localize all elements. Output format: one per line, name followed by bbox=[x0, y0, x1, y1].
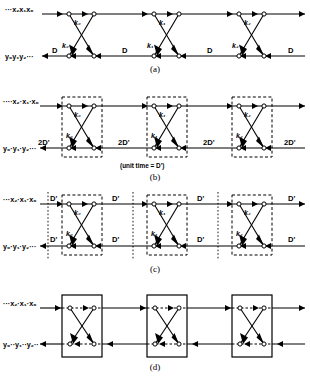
delay-label-3: 2D' bbox=[284, 138, 296, 147]
panel-c-caption: (c) bbox=[0, 264, 310, 274]
output-stream-label: y₀·y₁·y₂··· bbox=[3, 144, 36, 153]
time-dividers bbox=[48, 192, 218, 260]
input-stream-label: ···x₂·x₁·x₀ bbox=[3, 299, 36, 308]
delay-label-1: 2D' bbox=[118, 138, 130, 147]
delay-label-2: 2D' bbox=[203, 138, 215, 147]
butterfly-stage-1 bbox=[153, 305, 181, 347]
output-stream-label: y₀·y₁·y₂··· bbox=[3, 242, 36, 251]
delay-label-1: D bbox=[122, 46, 128, 55]
delay-label-bottom-1: D' bbox=[112, 235, 119, 244]
delay-label-bottom-3: D' bbox=[288, 235, 295, 244]
stage-label-k2-top: k₂ bbox=[244, 111, 251, 118]
delay-label-0: D bbox=[52, 46, 58, 55]
stage-label-k1-bottom: k₁ bbox=[147, 42, 154, 49]
butterfly-stage-0 bbox=[67, 202, 96, 248]
input-stream-label: ····x₂·x₁·x₀ bbox=[3, 97, 39, 106]
stage-label-k2-bottom: k₂ bbox=[236, 132, 243, 139]
butterfly-stage-1 bbox=[152, 12, 181, 58]
butterfly-stage-1 bbox=[152, 202, 181, 248]
panel-d-caption: (d) bbox=[0, 362, 310, 372]
stage-label-k1-top: k₁ bbox=[159, 19, 166, 26]
stage-label-k0-top: k₀ bbox=[74, 209, 81, 216]
delay-label-2: D bbox=[207, 46, 213, 55]
panel-c: k₀ k₀ k₁ k₁ k₂ k₂ D' D' D' D' D' D' D' D… bbox=[0, 190, 310, 272]
butterfly-stage-0 bbox=[67, 12, 96, 58]
butterfly-stage-1 bbox=[152, 104, 181, 150]
panel-a: k₀ k₀ k₁ k₁ k₂ k₂ D D D D ···x₂x₁x₀ y₀y₁… bbox=[0, 0, 310, 80]
panel-b: k₀ k₀ k₁ k₁ k₂ k₂ 2D' 2D' 2D' 2D' ····x₂… bbox=[0, 92, 310, 187]
stage-label-k1-bottom: k₁ bbox=[151, 132, 158, 139]
stage-label-k0-top: k₀ bbox=[74, 19, 81, 26]
unit-time-note: (unit time = D') bbox=[120, 162, 164, 170]
stage-label-k2-bottom: k₂ bbox=[232, 42, 239, 49]
panel-c-diagram: k₀ k₀ k₁ k₁ k₂ k₂ D' D' D' D' D' D' D' D… bbox=[0, 190, 310, 272]
panel-a-caption: (a) bbox=[0, 64, 310, 74]
butterfly-stage-0 bbox=[68, 305, 96, 347]
stage-label-k0-bottom: k₀ bbox=[62, 42, 69, 49]
butterfly-stage-0 bbox=[67, 104, 96, 150]
input-stream-label: ···x₂·x₁·x₀ bbox=[3, 195, 36, 204]
input-stream-label: ···x₂x₁x₀ bbox=[5, 5, 34, 14]
delay-label-top-2: D' bbox=[197, 194, 204, 203]
delay-label-bottom-0: D' bbox=[50, 235, 57, 244]
panel-d: ···x₂·x₁·x₀ y₀··y₁··y₂·· (d) bbox=[0, 288, 310, 379]
butterfly-stage-2 bbox=[237, 202, 266, 248]
stage-label-k1-top: k₁ bbox=[159, 209, 166, 216]
delay-label-top-1: D' bbox=[112, 194, 119, 203]
delay-label-0: 2D' bbox=[38, 138, 50, 147]
stage-label-k0-bottom: k₀ bbox=[66, 230, 73, 237]
stage-label-k0-top: k₀ bbox=[74, 111, 81, 118]
delay-label-bottom-2: D' bbox=[197, 235, 204, 244]
stage-label-k1-bottom: k₁ bbox=[151, 230, 158, 237]
panel-b-caption: (b) bbox=[0, 172, 310, 182]
stage-label-k2-bottom: k₂ bbox=[236, 230, 243, 237]
figure-root: k₀ k₀ k₁ k₁ k₂ k₂ D D D D ···x₂x₁x₀ y₀y₁… bbox=[0, 0, 310, 379]
delay-label-top-3: D' bbox=[288, 194, 295, 203]
stage-label-k2-top: k₂ bbox=[244, 209, 251, 216]
stage-label-k1-top: k₁ bbox=[159, 111, 166, 118]
delay-label-3: D bbox=[288, 46, 294, 55]
output-stream-label: y₀··y₁··y₂·· bbox=[3, 340, 39, 349]
butterfly-stage-2 bbox=[238, 305, 266, 347]
delay-label-top-0: D' bbox=[50, 194, 57, 203]
butterfly-stage-2 bbox=[237, 12, 266, 58]
stage-label-k0-bottom: k₀ bbox=[66, 132, 73, 139]
butterfly-stage-2 bbox=[237, 104, 266, 150]
output-stream-label: y₀y₁y₂··· bbox=[5, 52, 34, 61]
stage-label-k2-top: k₂ bbox=[244, 19, 251, 26]
